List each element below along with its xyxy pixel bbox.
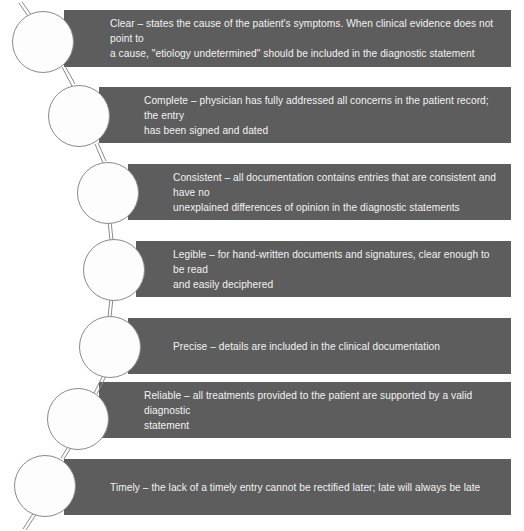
- band-text-complete: Complete – physician has fully addressed…: [144, 93, 503, 138]
- band-text-timely: Timely – the lack of a timely entry cann…: [110, 480, 480, 495]
- band-timely: Timely – the lack of a timely entry cann…: [64, 459, 511, 515]
- band-legible: Legible – for hand-written documents and…: [136, 241, 511, 297]
- band-text-legible: Legible – for hand-written documents and…: [173, 247, 503, 292]
- band-reliable: Reliable – all treatments provided to th…: [99, 382, 511, 438]
- band-complete: Complete – physician has fully addressed…: [99, 87, 511, 143]
- node-circle-reliable[interactable]: [47, 388, 109, 450]
- band-text-precise: Precise – details are included in the cl…: [173, 339, 440, 354]
- connector-1-2: [62, 66, 75, 86]
- band-text-reliable: Reliable – all treatments provided to th…: [144, 388, 503, 433]
- band-text-consistent: Consistent – all documentation contains …: [173, 170, 503, 215]
- chain-diagram: Clear – states the cause of the patient'…: [0, 0, 524, 531]
- node-circle-precise[interactable]: [79, 316, 141, 378]
- node-circle-complete[interactable]: [48, 85, 110, 147]
- band-precise: Precise – details are included in the cl…: [128, 318, 511, 374]
- band-clear: Clear – states the cause of the patient'…: [64, 10, 511, 67]
- node-circle-clear[interactable]: [12, 11, 74, 73]
- node-circle-consistent[interactable]: [77, 162, 139, 224]
- connector-2-3: [95, 143, 106, 163]
- node-circle-legible[interactable]: [83, 239, 145, 301]
- band-text-clear: Clear – states the cause of the patient'…: [110, 16, 503, 61]
- node-circle-timely[interactable]: [14, 455, 76, 517]
- band-consistent: Consistent – all documentation contains …: [128, 164, 511, 220]
